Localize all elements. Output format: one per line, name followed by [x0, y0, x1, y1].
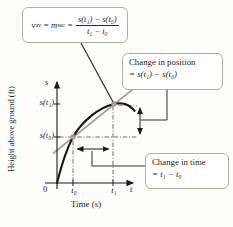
x-axis-title: Time (s)	[55, 199, 117, 209]
time-callout-leader-line	[92, 151, 145, 166]
fraction-numerator: s(t₁) − s(t₀)	[76, 14, 119, 26]
fraction-denominator: t₁ − t₀	[76, 26, 119, 37]
formula-box: vav = msec = s(t₁) − s(t₀) t₁ − t₀	[22, 7, 128, 43]
equals-sign: =	[44, 20, 49, 30]
position-curve	[57, 103, 135, 183]
formula-leader-line	[81, 43, 113, 102]
change-in-time-callout: Change in time = t₁ − t₀	[145, 153, 229, 189]
x-tick-label-t0: t₀	[68, 185, 80, 195]
y-axis-variable: s	[45, 77, 48, 87]
callout-formula: = s(t₁) − s(t₀)	[129, 69, 216, 81]
point-t0-dot	[70, 134, 75, 139]
y-tick-label-s-t1: s(t₁)	[24, 97, 54, 107]
position-callout-leader-line	[141, 90, 167, 120]
y-axis-title: Height above ground (ft)	[6, 73, 16, 185]
average-velocity-figure: vav = msec = s(t₁) − s(t₀) t₁ − t₀ Chang…	[0, 0, 233, 227]
change-in-position-callout: Change in position = s(t₁) − s(t₀)	[122, 53, 223, 90]
fraction: s(t₁) − s(t₀) t₁ − t₀	[76, 14, 119, 36]
y-tick-label-s-t0: s(t₀)	[24, 130, 54, 140]
x-axis-variable: t	[130, 184, 132, 194]
callout-title: Change in position	[129, 57, 216, 69]
x-tick-label-t1: t₁	[108, 185, 120, 195]
secant-line	[53, 84, 140, 154]
callout-title: Change in time	[152, 157, 222, 169]
point-t1-dot	[111, 101, 116, 106]
equals-sign: =	[68, 20, 73, 30]
callout-formula: = t₁ − t₀	[152, 169, 222, 181]
origin-label: 0	[43, 184, 47, 194]
